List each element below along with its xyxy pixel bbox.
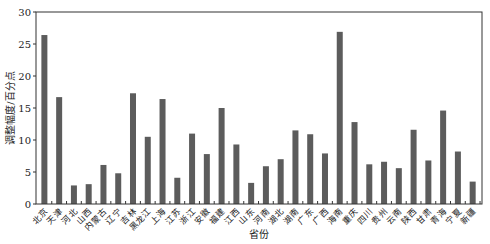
bar-10 [189, 134, 195, 204]
bar-5 [115, 173, 121, 204]
bar-2 [71, 185, 77, 204]
bar-9 [174, 178, 180, 204]
bar-14 [248, 183, 254, 204]
bar-28 [455, 152, 461, 204]
bar-20 [337, 32, 343, 204]
bar-1 [56, 97, 62, 204]
x-tick-label: 新疆 [458, 206, 478, 226]
x-axis-label: 省份 [249, 228, 269, 240]
y-axis: 051015202530 [18, 7, 36, 210]
bar-8 [160, 99, 166, 204]
bar-0 [41, 35, 47, 204]
bar-11 [204, 154, 210, 204]
y-tick-label: 30 [18, 7, 31, 18]
bar-19 [322, 153, 328, 204]
bar-18 [307, 134, 313, 204]
y-tick-label: 15 [18, 103, 31, 114]
bar-29 [470, 182, 476, 204]
bar-25 [411, 130, 417, 204]
y-tick-label: 10 [18, 135, 31, 146]
bar-16 [278, 159, 284, 204]
bar-4 [100, 165, 106, 204]
y-tick-label: 0 [25, 199, 31, 210]
y-axis-label: 调整幅度/百分点 [4, 71, 16, 144]
y-tick-label: 5 [25, 167, 31, 178]
bar-3 [86, 184, 92, 204]
bar-23 [381, 162, 387, 204]
bar-21 [352, 122, 358, 204]
bar-27 [440, 111, 446, 204]
bar-26 [425, 160, 431, 204]
bar-6 [130, 93, 136, 204]
bar-24 [396, 168, 402, 204]
bar-13 [233, 144, 239, 204]
y-tick-label: 25 [18, 39, 31, 50]
bar-12 [219, 108, 225, 204]
y-tick-label: 20 [18, 71, 31, 82]
bar-17 [292, 130, 298, 204]
bars [41, 32, 475, 204]
bar-chart: 051015202530 北京天津河北山西内蒙古辽宁吉林黑龙江上海江苏浙江安徽福… [0, 0, 490, 244]
bar-15 [263, 166, 269, 204]
bar-7 [145, 137, 151, 204]
x-axis: 北京天津河北山西内蒙古辽宁吉林黑龙江上海江苏浙江安徽福建江西山东河南湖北湖南广东… [30, 201, 480, 233]
bar-22 [366, 164, 372, 204]
